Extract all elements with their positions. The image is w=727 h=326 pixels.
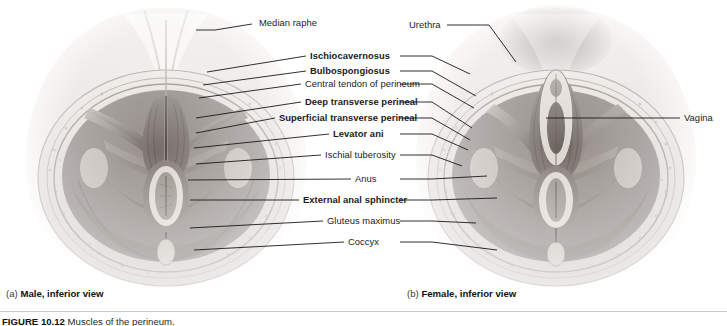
figure-number: FIGURE 10.12 bbox=[2, 316, 65, 326]
label-median-raphe: Median raphe bbox=[259, 18, 317, 28]
label-superficial-transverse-perineal: Superficial transverse perineal bbox=[279, 113, 417, 123]
label-deep-transverse-perineal: Deep transverse perineal bbox=[305, 97, 418, 107]
label-external-anal-sphincter: External anal sphincter bbox=[303, 195, 407, 205]
edge-vignette bbox=[0, 0, 324, 300]
edge-vignette bbox=[398, 0, 727, 300]
label-gluteus-maximus: Gluteus maximus bbox=[327, 216, 400, 226]
label-coccyx: Coccyx bbox=[348, 237, 379, 247]
caption-male: (a) Male, inferior view bbox=[6, 288, 104, 299]
caption-female-text: Female, inferior view bbox=[421, 288, 516, 299]
label-ischiocavernosus: Ischiocavernosus bbox=[310, 51, 390, 61]
label-levator-ani: Levator ani bbox=[333, 129, 384, 139]
label-ischial-tuberosity: Ischial tuberosity bbox=[325, 150, 396, 160]
label-bulbospongiosus: Bulbospongiosus bbox=[310, 66, 390, 76]
figure-container: Median rapheIschiocavernosusBulbospongio… bbox=[0, 0, 727, 326]
caption-female-tag: (b) bbox=[407, 288, 421, 299]
figure-title: FIGURE 10.12 Muscles of the perineum. bbox=[2, 316, 175, 326]
figure-title-text: Muscles of the perineum. bbox=[68, 316, 175, 326]
label-vagina: Vagina bbox=[684, 113, 713, 123]
label-urethra: Urethra bbox=[409, 20, 441, 30]
label-central-tendon-of-perineum: Central tendon of perineum bbox=[305, 79, 420, 89]
caption-male-tag: (a) bbox=[6, 288, 20, 299]
illustration-male-perineum bbox=[0, 0, 324, 300]
caption-male-text: Male, inferior view bbox=[20, 288, 103, 299]
divider-rule bbox=[0, 311, 727, 312]
label-anus: Anus bbox=[355, 174, 377, 184]
illustration-female-perineum bbox=[398, 0, 727, 300]
caption-female: (b) Female, inferior view bbox=[407, 288, 516, 299]
